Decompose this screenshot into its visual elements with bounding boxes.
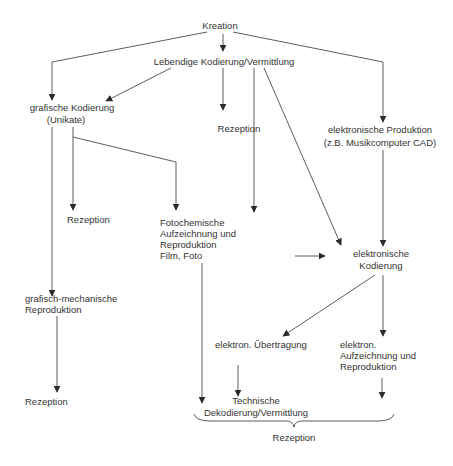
- node-fotochemische-line3: Reproduktion: [160, 239, 217, 250]
- diagram-canvas: Kreation Lebendige Kodierung/Vermittlung…: [0, 0, 453, 466]
- node-fotochemische-line2: Aufzeichnung und: [160, 228, 236, 239]
- media-flow-diagram: Kreation Lebendige Kodierung/Vermittlung…: [0, 0, 453, 466]
- node-elektron-uebertragung: elektron. Übertragung: [215, 339, 307, 350]
- node-grafisch-mechanische-line1: grafisch-mechanische: [25, 293, 117, 304]
- node-technische-line1: Technische: [232, 395, 280, 406]
- node-elektron-aufzeichnung-line2: Aufzeichnung und: [340, 350, 416, 361]
- node-elektronische-produktion-line2: (z.B. Musikcomputer CAD): [324, 137, 436, 148]
- edge-kreation-elektronische-produktion: [233, 32, 383, 122]
- node-rezeption-bottom: Rezeption: [273, 432, 316, 443]
- node-grafische-kodierung-line1: grafische Kodierung: [30, 102, 115, 113]
- edge-lebendige-grafische: [106, 68, 171, 101]
- node-elektron-aufzeichnung-line1: elektron.: [340, 339, 376, 350]
- edge-lebendige-elektronische-kodierung: [264, 68, 341, 245]
- node-fotochemische-line1: Fotochemische: [160, 217, 224, 228]
- node-elektron-aufzeichnung-line3: Reproduktion: [340, 361, 397, 372]
- edge-grafische-fotochemische: [73, 137, 176, 210]
- node-lebendige-kodierung: Lebendige Kodierung/Vermittlung: [154, 56, 295, 67]
- node-rezeption-left-mid: Rezeption: [67, 214, 110, 225]
- node-grafische-kodierung-line2: (Unikate): [47, 114, 86, 125]
- node-elektronische-produktion-line1: elektronische Produktion: [328, 124, 432, 135]
- node-technische-line2: Dekodierung/Vermittlung: [204, 407, 308, 418]
- node-elektronische-kodierung-line1: elektronische: [353, 248, 409, 259]
- edge-kodierung-uebertragung: [283, 275, 375, 336]
- node-rezeption-middle: Rezeption: [218, 123, 261, 134]
- node-kreation: Kreation: [202, 20, 237, 31]
- node-rezeption-left-bottom: Rezeption: [25, 396, 68, 407]
- node-fotochemische-line4: Film, Foto: [160, 250, 202, 261]
- node-grafisch-mechanische-line2: Reproduktion: [25, 304, 82, 315]
- node-elektronische-kodierung-line2: Kodierung: [359, 260, 402, 271]
- nodes: Kreation Lebendige Kodierung/Vermittlung…: [25, 20, 436, 443]
